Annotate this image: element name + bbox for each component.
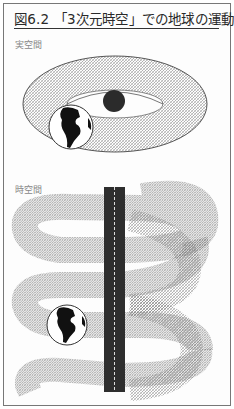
earth-globe-spacetime-icon (47, 305, 87, 345)
earth-globe-icon (49, 105, 93, 149)
sun-worldline (104, 187, 125, 392)
sun-icon (103, 90, 125, 112)
diagram-canvas (0, 0, 234, 409)
